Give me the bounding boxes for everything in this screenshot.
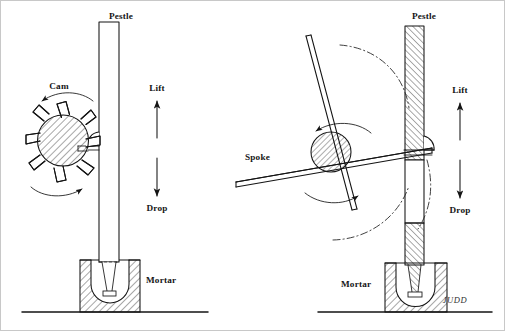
label-mortar-right: Mortar xyxy=(341,279,371,289)
label-drop-left: Drop xyxy=(146,203,167,213)
spoke-assembly-right xyxy=(236,35,432,210)
pestle-left xyxy=(99,22,119,296)
right-figure-group: Pestle Spoke Lift Drop Mortar xyxy=(236,11,492,312)
figure-root: Pestle Cam Lift Drop Mortar xyxy=(0,0,505,331)
spoke-rotation-arrow-top xyxy=(316,123,371,133)
spoke-path-arc-top xyxy=(340,45,409,108)
artist-signature: JUDD xyxy=(443,295,468,305)
cam-rotation-arrow-top xyxy=(42,93,93,101)
cam-wheel-left xyxy=(26,102,100,183)
label-lift-left: Lift xyxy=(149,83,165,93)
label-spoke: Spoke xyxy=(245,152,270,162)
label-lift-right: Lift xyxy=(452,85,468,95)
cam-rotation-arrow-bottom xyxy=(31,187,82,196)
label-cam: Cam xyxy=(49,81,69,91)
spoke-path-arc-bottom xyxy=(333,186,409,240)
label-mortar-left: Mortar xyxy=(146,275,176,285)
pestle-right xyxy=(405,26,424,297)
label-drop-right: Drop xyxy=(449,205,470,215)
label-pestle-left: Pestle xyxy=(109,11,133,21)
mechanism-diagram: Pestle Cam Lift Drop Mortar xyxy=(0,0,505,331)
label-pestle-right: Pestle xyxy=(412,11,436,21)
left-figure-group: Pestle Cam Lift Drop Mortar xyxy=(22,11,208,312)
